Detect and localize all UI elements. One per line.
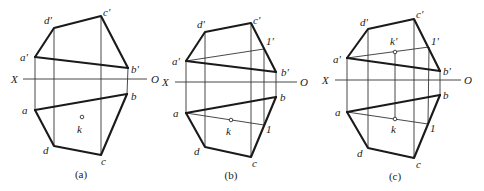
top-diagonal-ab: [186, 97, 276, 113]
panel-c: XOd'c'k'1'a'b'bak1dc(c): [321, 8, 472, 183]
vertex-label: 1': [266, 35, 275, 47]
vertex-label: 1': [431, 35, 440, 47]
vertex-label: a: [22, 104, 28, 116]
vertex-label: 1: [266, 123, 272, 135]
axis-label-x: X: [321, 74, 330, 86]
axis-label-o: O: [464, 74, 472, 86]
point-k-marker: [80, 115, 84, 119]
vertex-label: c: [416, 158, 421, 170]
vertex-label: c': [253, 14, 261, 26]
vertex-label: c': [103, 6, 111, 18]
panel-b: XOd'c'1'a'b'bak1dc(b): [161, 14, 308, 182]
vertex-label: a': [20, 51, 29, 63]
axis-label-x: X: [161, 76, 170, 88]
panel-caption: (c): [389, 170, 402, 183]
vertex-label: b: [443, 89, 449, 101]
top-diagonal-ab: [35, 94, 127, 110]
projector-b: [127, 68, 128, 94]
front-view-outline: [186, 23, 276, 72]
projector-1: [428, 47, 429, 124]
vertex-label: b': [443, 65, 452, 77]
vertex-label: k: [391, 123, 397, 135]
vertex-label: 1: [430, 122, 436, 134]
vertex-label: c: [101, 155, 106, 167]
vertex-label: d': [360, 16, 369, 28]
vertex-label: d: [357, 147, 363, 159]
panel-a: XOd'c'a'b'bakdc(a): [10, 6, 159, 181]
vertex-label: b: [131, 90, 137, 102]
vertex-label: d': [197, 18, 206, 30]
vertex-label: k: [77, 123, 83, 135]
vertex-label: k': [390, 35, 398, 47]
vertex-label: b': [131, 63, 140, 75]
aux-line-a1-front: [186, 49, 264, 61]
front-diagonal-ab: [35, 57, 128, 68]
axis-label-x: X: [10, 73, 19, 85]
diagram-svg: XOd'c'a'b'bakdc(a)XOd'c'1'a'b'bak1dc(b)X…: [0, 0, 484, 191]
aux-line-a1-top: [347, 112, 428, 124]
panel-caption: (a): [75, 168, 88, 181]
vertex-label: a': [333, 53, 342, 65]
vertex-label: c: [252, 157, 257, 169]
point-k-prime-marker: [393, 50, 397, 54]
vertex-label: d: [43, 144, 49, 156]
top-diagonal-ab: [347, 95, 440, 112]
point-k-marker: [229, 118, 233, 122]
vertex-label: k: [226, 125, 232, 137]
vertex-label: d': [44, 14, 53, 26]
vertex-label: d: [194, 145, 200, 157]
point-k-marker: [393, 117, 397, 121]
vertex-label: c': [416, 8, 424, 20]
aux-line-a1-front: [347, 47, 429, 58]
axis-label-o: O: [300, 76, 308, 88]
front-diagonal-ab: [347, 58, 440, 71]
vertex-label: a: [173, 107, 179, 119]
front-diagonal-ab: [186, 61, 276, 72]
axis-label-o: O: [151, 73, 159, 85]
vertex-label: b: [280, 91, 286, 103]
projection-figure: XOd'c'a'b'bakdc(a)XOd'c'1'a'b'bak1dc(b)X…: [0, 0, 484, 191]
panel-caption: (b): [225, 169, 238, 182]
vertex-label: a: [335, 106, 341, 118]
vertex-label: a': [172, 55, 181, 67]
aux-line-a1-top: [186, 113, 264, 125]
vertex-label: b': [281, 66, 290, 78]
